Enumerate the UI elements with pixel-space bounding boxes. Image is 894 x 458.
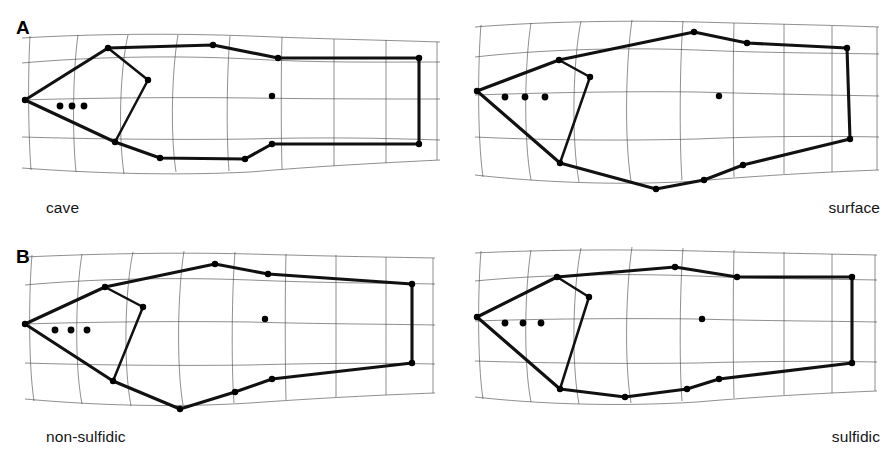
sulfidic-gridlines xyxy=(475,247,877,404)
sulfidic-spot-markers xyxy=(502,320,545,327)
sulfidic-landmarks xyxy=(474,264,855,400)
surface-spot-markers xyxy=(502,94,549,101)
cave-spot-markers xyxy=(57,103,88,110)
non-sulfidic-landmarks xyxy=(22,261,415,412)
sulfidic-body-outline xyxy=(477,267,852,397)
figure-root: A xyxy=(0,0,894,458)
panel-row-a: A xyxy=(0,0,894,229)
panel-sulfidic: sulfidic xyxy=(447,229,894,458)
surface-body-outline xyxy=(477,32,850,189)
caption-non-sulfidic: non-sulfidic xyxy=(46,429,126,445)
cave-grid-svg xyxy=(0,0,447,229)
panel-row-b: B xyxy=(0,229,894,458)
surface-gridlines xyxy=(475,20,879,183)
caption-cave: cave xyxy=(46,200,79,216)
caption-surface: surface xyxy=(828,200,880,216)
caption-sulfidic: sulfidic xyxy=(832,429,880,445)
non-sulfidic-body-outline xyxy=(25,264,412,409)
surface-grid-svg xyxy=(447,0,894,229)
panel-surface: surface xyxy=(447,0,894,229)
sulfidic-grid-svg xyxy=(447,229,894,458)
non-sulfidic-spot-markers xyxy=(52,327,91,334)
surface-landmarks xyxy=(474,29,853,192)
non-sulfidic-grid-svg xyxy=(0,229,447,458)
panel-cave: A xyxy=(0,0,447,229)
panel-non-sulfidic: B xyxy=(0,229,447,458)
